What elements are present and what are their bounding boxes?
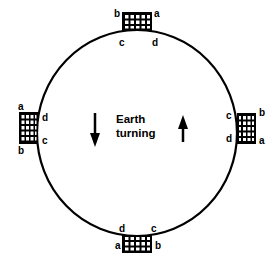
top-grid-label-c: c: [119, 38, 125, 48]
right-grid-label-d: d: [226, 134, 232, 144]
top-grid-label-d: d: [152, 38, 158, 48]
right-grid-label-a: a: [259, 136, 265, 146]
bottom-grid-icon: [122, 235, 152, 253]
bottom-grid-label-d: d: [119, 224, 125, 234]
left-grid-label-d: d: [42, 113, 48, 123]
right-grid-label-b: b: [259, 108, 265, 118]
label-line-2: turning: [116, 126, 176, 140]
label-line-1: Earth: [116, 112, 176, 126]
left-grid-label-b: b: [18, 146, 24, 156]
bottom-grid-label-a: a: [115, 241, 121, 251]
arrow-down-icon: [90, 113, 100, 147]
top-grid-label-a: a: [154, 9, 160, 19]
arrow-up-icon: [178, 115, 188, 142]
earth-turning-label: Earth turning: [116, 112, 176, 140]
top-grid-label-b: b: [114, 9, 120, 19]
left-grid-icon: [19, 112, 38, 144]
top-grid-icon: [122, 12, 152, 31]
bottom-grid-label-b: b: [155, 241, 161, 251]
left-grid-label-c: c: [42, 136, 48, 146]
right-grid-label-c: c: [226, 111, 232, 121]
right-grid-icon: [237, 113, 256, 144]
earth-rotation-diagram: Earth turning b a c d a b d c c b d a d …: [0, 0, 279, 261]
left-grid-label-a: a: [18, 102, 24, 112]
bottom-grid-label-c: c: [151, 224, 157, 234]
